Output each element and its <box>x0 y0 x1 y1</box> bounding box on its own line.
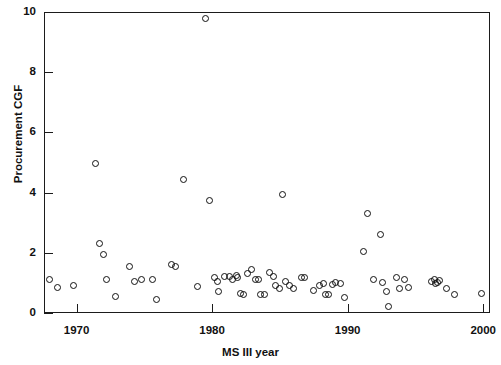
data-point-marker <box>112 293 119 300</box>
data-point-marker <box>276 285 283 292</box>
x-axis-label: MS III year <box>0 346 501 358</box>
y-axis-tick-label: 10 <box>8 6 36 18</box>
data-point-marker <box>478 290 485 297</box>
data-point-marker <box>290 285 297 292</box>
data-point-marker <box>46 276 53 283</box>
y-axis-tick <box>44 132 53 133</box>
data-point-marker <box>54 284 61 291</box>
data-point-marker <box>370 276 377 283</box>
data-point-marker <box>379 279 386 286</box>
y-axis-tick <box>44 72 53 73</box>
data-point-marker <box>234 274 241 281</box>
y-axis-tick-label: 2 <box>8 247 36 259</box>
data-point-marker <box>206 197 213 204</box>
x-axis-tick <box>483 304 484 313</box>
data-point-marker <box>385 303 392 310</box>
data-point-marker <box>396 285 403 292</box>
data-point-marker <box>103 276 110 283</box>
x-axis-tick-label: 1970 <box>47 325 107 337</box>
y-axis-tick <box>44 313 53 314</box>
y-axis-tick <box>44 253 53 254</box>
data-point-marker <box>92 160 99 167</box>
data-point-marker <box>255 276 262 283</box>
data-point-marker <box>96 240 103 247</box>
y-axis-tick <box>44 193 53 194</box>
data-point-marker <box>341 294 348 301</box>
data-point-marker <box>325 291 332 298</box>
y-axis-tick <box>44 12 53 13</box>
data-point-marker <box>401 276 408 283</box>
data-point-marker <box>270 273 277 280</box>
x-axis-tick-label: 2000 <box>453 325 501 337</box>
data-point-marker <box>451 291 458 298</box>
y-axis-tick-label: 0 <box>8 307 36 319</box>
data-point-marker <box>172 263 179 270</box>
data-point-marker <box>261 291 268 298</box>
data-point-marker <box>153 296 160 303</box>
data-point-marker <box>377 231 384 238</box>
x-axis-tick-label: 1990 <box>318 325 378 337</box>
y-axis-label: Procurement CGF <box>12 64 24 204</box>
x-axis-tick <box>77 304 78 313</box>
data-point-marker <box>405 284 412 291</box>
data-point-marker <box>360 248 367 255</box>
data-point-marker <box>320 280 327 287</box>
data-point-marker <box>194 283 201 290</box>
data-point-marker <box>70 282 77 289</box>
data-point-marker <box>240 291 247 298</box>
x-axis-tick <box>348 304 349 313</box>
data-point-marker <box>443 285 450 292</box>
data-point-marker <box>214 278 221 285</box>
data-point-marker <box>180 176 187 183</box>
data-point-marker <box>100 251 107 258</box>
data-point-marker <box>248 266 255 273</box>
x-axis-tick-label: 1980 <box>182 325 242 337</box>
data-point-marker <box>337 280 344 287</box>
data-point-marker <box>215 288 222 295</box>
data-point-marker <box>126 263 133 270</box>
plot-area <box>44 12 490 313</box>
data-point-marker <box>393 274 400 281</box>
data-point-marker <box>149 276 156 283</box>
data-point-marker <box>383 288 390 295</box>
scatter-chart-figure: 0246810 1970198019902000 Procurement CGF… <box>0 0 501 365</box>
x-axis-tick <box>212 304 213 313</box>
data-point-marker <box>202 15 209 22</box>
data-point-marker <box>436 277 443 284</box>
data-point-marker <box>364 210 371 217</box>
data-point-marker <box>301 274 308 281</box>
data-point-marker <box>138 276 145 283</box>
data-point-marker <box>279 191 286 198</box>
